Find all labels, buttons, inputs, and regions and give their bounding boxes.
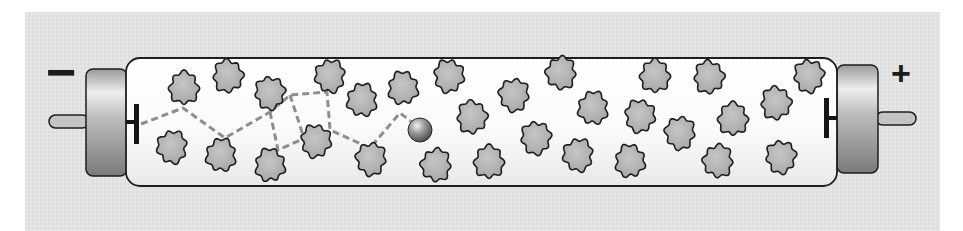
cathode-end-cap [86,69,127,176]
positive-polarity-label: + [891,56,911,90]
electron-icon [408,118,432,142]
diagram-canvas [0,0,963,231]
discharge-tube-diagram: − + [0,0,963,231]
negative-polarity-label: − [46,46,76,98]
cathode-pin [49,115,89,128]
anode-pin [876,112,916,125]
anode-end-cap [837,65,878,173]
